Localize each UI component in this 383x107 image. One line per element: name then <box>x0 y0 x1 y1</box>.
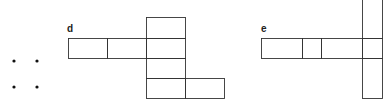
figure-d: d <box>67 18 225 99</box>
cell <box>108 39 147 59</box>
cell <box>322 39 363 59</box>
net-diagrams: d e <box>0 0 383 107</box>
figure-e-label: e <box>261 23 267 34</box>
cell <box>147 59 186 79</box>
dot <box>35 85 38 88</box>
dot <box>12 59 15 62</box>
dot <box>12 85 15 88</box>
cell <box>147 18 186 39</box>
cell <box>186 79 225 99</box>
cell <box>363 0 383 39</box>
cell <box>303 39 322 59</box>
figure-e: e <box>261 0 383 99</box>
figure-d-label: d <box>67 23 73 34</box>
dot-grid <box>12 59 38 88</box>
cell <box>363 59 383 99</box>
cell <box>363 39 383 59</box>
cell <box>147 79 186 99</box>
cell <box>69 39 108 59</box>
cell <box>147 39 186 59</box>
dot <box>35 59 38 62</box>
cell <box>262 39 303 59</box>
